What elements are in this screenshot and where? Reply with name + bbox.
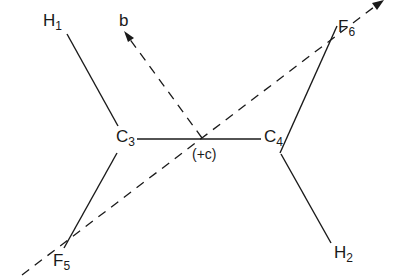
bond-c4-f6 bbox=[280, 26, 337, 153]
bond-c3-f5 bbox=[64, 153, 117, 248]
ff-axis-arrowhead-icon bbox=[372, 0, 384, 10]
bond-c4-h2 bbox=[281, 154, 331, 243]
atom-label-c3: C3 bbox=[116, 128, 135, 148]
atom-label-f5: F5 bbox=[53, 252, 70, 272]
molecule-diagram bbox=[0, 0, 398, 277]
center-label-plus-c: (+c) bbox=[192, 147, 217, 161]
b-axis-line bbox=[129, 38, 202, 138]
atom-label-h2: H2 bbox=[334, 244, 353, 264]
axis-label-b: b bbox=[119, 12, 128, 29]
b-axis-arrowhead-icon bbox=[124, 31, 134, 42]
bond-h1-c3 bbox=[67, 34, 118, 126]
atom-label-h1: H1 bbox=[43, 12, 62, 32]
atom-label-c4: C4 bbox=[264, 128, 283, 148]
atom-label-f6: F6 bbox=[338, 18, 355, 38]
